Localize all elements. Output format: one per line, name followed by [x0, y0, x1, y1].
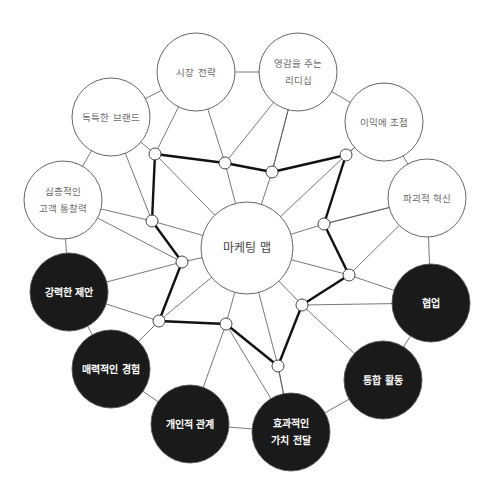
- junction-node: [318, 218, 330, 230]
- junction-node: [219, 157, 231, 169]
- label-collaboration: 협업: [422, 295, 440, 312]
- star-outline: [159, 321, 226, 324]
- junction-node: [220, 318, 232, 330]
- junction-node: [272, 360, 284, 372]
- label-disruptive-innovation: 파괴적 혁신: [403, 190, 451, 207]
- star-outline: [226, 324, 278, 366]
- label-engaging-experience: 매력적인 경험: [82, 361, 139, 378]
- star-outline: [155, 154, 225, 163]
- label-strong-proposition: 강력한 제안: [45, 284, 93, 301]
- star-outline: [278, 305, 302, 366]
- junction-node: [153, 315, 165, 327]
- label-effective-value-delivery: 효과적인가치 전달: [271, 415, 310, 449]
- junction-node: [146, 215, 158, 227]
- center-label: 마케팅 맵: [223, 240, 271, 257]
- junction-node: [176, 256, 188, 268]
- label-integrated-activities: 통합 활동: [363, 372, 402, 389]
- junction-node: [266, 166, 278, 178]
- junction-node: [340, 149, 352, 161]
- label-personal-relationships: 개인적 관계: [166, 416, 214, 433]
- label-market-strategy: 시장 전략: [176, 64, 215, 81]
- star-outline: [302, 275, 349, 305]
- star-outline: [159, 262, 182, 321]
- label-inspiring-leadership: 영감을 주는리디십: [274, 55, 322, 89]
- star-outline: [152, 154, 155, 221]
- label-deep-customer-insight: 심층적인고객 통찰력: [39, 183, 87, 217]
- junction-node: [343, 269, 355, 281]
- star-outline: [324, 224, 349, 275]
- junction-node: [149, 148, 161, 160]
- label-unique-brand: 독특한 브랜드: [82, 109, 139, 126]
- junction-node: [296, 299, 308, 311]
- star-outline: [152, 221, 182, 262]
- star-outline: [225, 163, 272, 172]
- star-outline: [272, 155, 346, 172]
- label-profit-focus: 이익에 초점: [360, 114, 408, 131]
